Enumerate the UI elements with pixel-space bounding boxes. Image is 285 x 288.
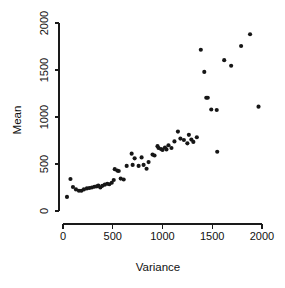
data-point [112,178,116,182]
ticks-group [55,23,263,229]
data-point [222,58,226,62]
data-point [122,177,126,181]
x-tick-label: 1500 [200,230,224,242]
data-point [147,160,151,164]
data-point [185,141,189,145]
data-point [176,130,180,134]
data-point [65,195,69,199]
data-points-group [65,32,261,199]
tick-labels-group: 05001000150020000500100015002000 [38,11,274,242]
y-tick-label: 500 [38,155,50,173]
axes-group [59,23,262,224]
y-tick-label: 0 [38,208,50,214]
data-point [206,96,210,100]
data-point [191,140,195,144]
plot-canvas: 05001000150020000500100015002000 Varianc… [0,0,285,288]
data-point [131,163,135,167]
scatter-plot-figure: 05001000150020000500100015002000 Varianc… [0,0,285,288]
data-point [145,167,149,171]
y-axis-title: Mean [11,106,23,135]
y-tick-label: 1500 [38,58,50,82]
y-tick-label: 2000 [38,11,50,35]
data-point [215,108,219,112]
data-point [256,105,260,109]
data-point [187,133,191,137]
data-point [229,64,233,68]
data-point [239,44,243,48]
data-point [130,152,134,156]
x-tick-label: 0 [60,230,66,242]
data-point [202,70,206,74]
x-axis-title: Variance [136,261,181,273]
data-point [117,169,121,173]
x-tick-label: 2000 [250,230,274,242]
data-point [199,48,203,52]
y-tick-label: 1000 [38,105,50,129]
data-point [68,177,72,181]
data-point [248,32,252,36]
data-point [182,138,186,142]
data-point [137,164,141,168]
data-point [215,150,219,154]
x-tick-label: 500 [104,230,122,242]
data-point [195,135,199,139]
data-point [133,156,137,160]
data-point [169,146,173,150]
x-tick-label: 1000 [150,230,174,242]
data-point [125,164,129,168]
data-point [140,155,144,159]
data-point [152,153,156,157]
data-point [172,139,176,143]
data-point [164,147,168,151]
data-point [142,163,146,167]
data-point [209,107,213,111]
